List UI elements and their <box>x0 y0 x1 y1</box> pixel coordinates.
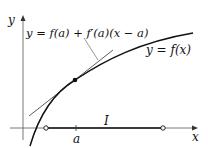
tangent-diagram: y x y = f(a) + f′(a)(x − a) y = f(x) a I <box>0 0 208 148</box>
y-axis-label: y <box>8 14 15 26</box>
point-a-label: a <box>73 133 80 145</box>
label-leader <box>84 38 98 60</box>
tangent-point <box>73 78 78 83</box>
curve-equation-label: y = f(x) <box>146 44 191 56</box>
y-axis-arrow-icon <box>21 15 26 21</box>
tangent-equation-label: y = f(a) + f′(a)(x − a) <box>26 28 148 40</box>
interval-label: I <box>104 115 109 127</box>
interval-open-endpoint-left <box>44 126 48 130</box>
x-axis-label: x <box>192 131 199 143</box>
interval-open-endpoint-right <box>161 126 165 130</box>
